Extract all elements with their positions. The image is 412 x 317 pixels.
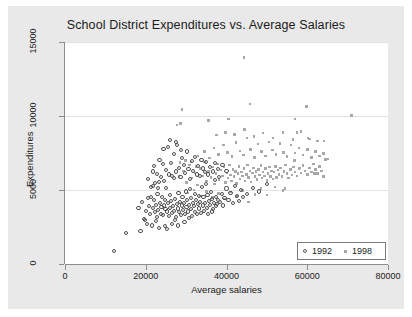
- x-tick-label: 40000: [197, 271, 257, 281]
- data-point-1992: [148, 212, 152, 216]
- data-point-1992: [211, 169, 215, 173]
- data-point-1998: [230, 180, 233, 183]
- data-point-1998: [238, 165, 241, 168]
- data-point-1998: [272, 178, 275, 181]
- data-point-1992: [200, 185, 204, 189]
- data-point-1998: [294, 171, 297, 174]
- data-point-1992: [157, 226, 161, 230]
- data-point-1992: [251, 186, 255, 190]
- data-point-1992: [182, 163, 186, 167]
- x-tick-mark: [65, 265, 66, 270]
- data-point-1998: [256, 178, 259, 181]
- data-point-1998: [193, 189, 196, 192]
- data-point-1992: [226, 198, 230, 202]
- data-point-1992: [224, 169, 228, 173]
- data-point-1992: [161, 147, 165, 151]
- data-point-1992: [213, 178, 217, 182]
- data-point-1998: [275, 153, 278, 156]
- data-point-1992: [183, 171, 187, 175]
- data-point-1998: [176, 124, 179, 127]
- data-point-1992: [173, 197, 177, 201]
- data-point-1998: [291, 174, 294, 177]
- data-point-1998: [316, 172, 319, 175]
- data-point-1992: [182, 220, 186, 224]
- data-point-1992: [157, 158, 161, 162]
- x-axis-title: Average salaries: [65, 284, 388, 295]
- data-point-1998: [274, 186, 277, 189]
- data-point-1998: [247, 176, 250, 179]
- data-point-1998: [300, 130, 303, 133]
- data-point-1992: [165, 209, 169, 213]
- data-point-1992: [193, 155, 197, 159]
- chart-title: School District Expenditures vs. Average…: [8, 18, 404, 32]
- data-point-1992: [112, 249, 116, 253]
- data-point-1998: [210, 176, 213, 179]
- data-point-1998: [207, 119, 210, 122]
- data-point-1998: [257, 168, 260, 171]
- x-tick-label: 60000: [277, 271, 337, 281]
- data-point-1998: [312, 163, 315, 166]
- data-point-1998: [179, 122, 182, 125]
- data-point-1998: [217, 153, 220, 156]
- data-point-1992: [209, 190, 213, 194]
- data-point-1992: [173, 218, 177, 222]
- data-point-1998: [294, 118, 297, 121]
- data-point-1992: [138, 229, 142, 233]
- data-point-1998: [185, 181, 188, 184]
- data-point-1998: [197, 155, 200, 158]
- legend-marker-filled-square-icon: [344, 250, 347, 253]
- data-point-1998: [242, 154, 245, 157]
- data-point-1992: [206, 172, 210, 176]
- data-point-1998: [251, 172, 254, 175]
- x-tick-mark: [307, 265, 308, 270]
- data-point-1992: [228, 191, 232, 195]
- data-point-1992: [166, 145, 170, 149]
- data-point-1992: [136, 206, 140, 210]
- chart-legend[interactable]: 1992 1998: [297, 242, 386, 260]
- data-point-1998: [284, 187, 287, 190]
- data-point-1992: [146, 177, 150, 181]
- gridline-y: [65, 42, 388, 43]
- data-point-1992: [168, 138, 172, 142]
- data-point-1998: [261, 177, 264, 180]
- y-tick-mark: [59, 116, 64, 117]
- data-point-1992: [155, 192, 159, 196]
- data-point-1992: [245, 192, 249, 196]
- y-tick-label: 5000: [28, 164, 38, 214]
- data-point-1998: [243, 56, 246, 59]
- chart-canvas: School District Expenditures vs. Average…: [8, 6, 404, 309]
- data-point-1992: [190, 159, 194, 163]
- data-point-1998: [246, 164, 249, 167]
- y-tick-label: 10000: [28, 90, 38, 140]
- legend-label-1998: 1998: [352, 246, 372, 256]
- data-point-1998: [302, 164, 305, 167]
- data-point-1998: [250, 181, 253, 184]
- data-point-1992: [217, 175, 221, 179]
- data-point-1998: [264, 167, 267, 170]
- data-point-1992: [152, 164, 156, 168]
- data-point-1998: [227, 118, 230, 121]
- data-point-1998: [243, 128, 246, 131]
- data-point-1998: [313, 172, 316, 175]
- data-point-1992: [180, 195, 184, 199]
- data-point-1998: [231, 155, 234, 158]
- legend-item-1998[interactable]: 1998: [344, 243, 372, 259]
- data-point-1998: [316, 140, 319, 143]
- data-point-1998: [215, 134, 218, 137]
- data-point-1998: [296, 131, 299, 134]
- data-point-1998: [314, 150, 317, 153]
- data-point-1992: [170, 222, 174, 226]
- data-point-1992: [204, 182, 208, 186]
- data-point-1992: [157, 180, 161, 184]
- data-point-1998: [326, 158, 329, 161]
- data-point-1998: [179, 161, 182, 164]
- legend-item-1992[interactable]: 1992: [303, 243, 332, 259]
- y-tick-mark: [59, 190, 64, 191]
- data-point-1998: [247, 201, 250, 204]
- data-point-1998: [229, 174, 232, 177]
- data-point-1998: [299, 167, 302, 170]
- data-point-1998: [262, 171, 265, 174]
- data-point-1998: [226, 151, 229, 154]
- data-point-1998: [304, 170, 307, 173]
- data-point-1998: [241, 175, 244, 178]
